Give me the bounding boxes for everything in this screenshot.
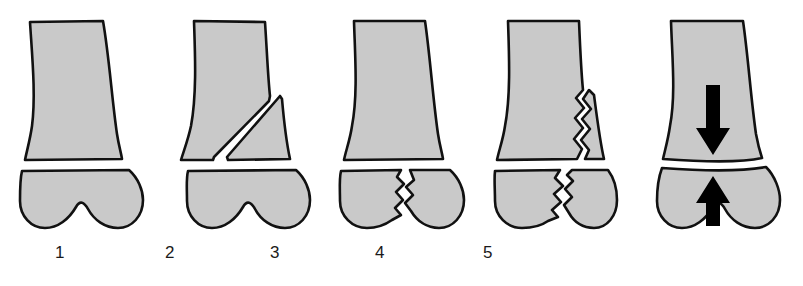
shaft-main-4 — [497, 21, 584, 160]
figure-5-svg — [645, 0, 800, 240]
figure-label-5: 5 — [458, 243, 518, 263]
bone-fracture-illustration-panel: 1 2 3 4 5 — [0, 0, 803, 286]
condyle-medial-fragment-4 — [495, 170, 563, 228]
shaft-lateral-fragment-4 — [581, 90, 604, 159]
figure-5-impacted-compression-fracture — [645, 0, 800, 286]
figure-4-svg — [480, 0, 640, 240]
figure-label-4: 4 — [350, 243, 410, 263]
condyle-medial-fragment-3 — [340, 170, 404, 228]
condyle-2 — [187, 170, 310, 228]
condyle-lateral-fragment-3 — [405, 170, 464, 228]
shaft-3 — [344, 21, 443, 160]
shaft-1 — [25, 21, 122, 160]
figure-2-svg — [170, 0, 325, 240]
figure-label-1: 1 — [30, 243, 90, 263]
figure-1-svg — [8, 0, 158, 240]
figure-label-3: 3 — [245, 243, 305, 263]
figure-label-2: 2 — [140, 243, 200, 263]
condyle-1 — [20, 170, 143, 228]
figure-3-svg — [328, 0, 478, 240]
condyle-lateral-fragment-4 — [564, 170, 617, 228]
